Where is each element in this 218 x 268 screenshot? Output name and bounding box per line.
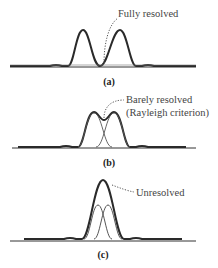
annotation-a: Fully resolved xyxy=(118,8,179,19)
intensity-curve-a xyxy=(10,30,196,66)
caption-c: (c) xyxy=(97,249,108,261)
caption-b: (b) xyxy=(103,157,115,169)
resolution-diagram: Fully resolved (a) Barely resolved (Rayl… xyxy=(0,0,218,268)
caption-a: (a) xyxy=(103,76,115,88)
panel-a: Fully resolved (a) xyxy=(10,8,196,88)
panel-c: Unresolved (c) xyxy=(10,180,196,261)
pointer-c xyxy=(112,185,134,192)
annotation-b-line2: (Rayleigh criterion) xyxy=(126,107,210,119)
pointer-b xyxy=(104,100,124,118)
annotation-c: Unresolved xyxy=(136,187,185,198)
annotation-b-line1: Barely resolved xyxy=(126,94,193,105)
panel-b: Barely resolved (Rayleigh criterion) (b) xyxy=(12,94,210,169)
